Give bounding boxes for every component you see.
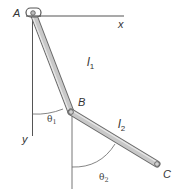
point-c-label: C: [163, 168, 171, 180]
double-pendulum-diagram: A B C x y l1 l2 θ1 θ2: [0, 0, 177, 189]
link-2-label: l2: [118, 117, 126, 133]
link-1-rod: [32, 13, 72, 113]
link-2-rod: [71, 111, 158, 165]
joint-b-pin: [69, 110, 74, 115]
point-b-label: B: [78, 96, 85, 108]
end-c-pin: [155, 162, 160, 167]
theta2-arc: [72, 144, 115, 167]
pivot-a-pin: [31, 11, 36, 16]
theta-2-label: θ2: [99, 172, 109, 184]
theta-1-label: θ1: [47, 114, 57, 126]
point-a-label: A: [12, 7, 20, 19]
x-axis-label: x: [117, 18, 124, 30]
link-1-label: l1: [87, 55, 95, 71]
y-axis-label: y: [21, 133, 29, 145]
